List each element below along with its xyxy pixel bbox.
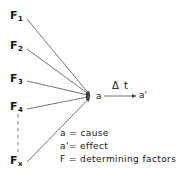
factor-label-Fx: Fx — [10, 155, 22, 168]
factor-label-F1: F1 — [10, 10, 22, 23]
factor-label-F4: F4 — [10, 101, 22, 114]
factor-subscript-Fx: x — [18, 160, 23, 168]
legend-item-factors: F = determining factors — [60, 153, 187, 166]
factor-subscript-F3: 3 — [18, 78, 23, 86]
legend-item-effect: a'= effect — [60, 140, 187, 153]
factor-subscript-F2: 2 — [18, 45, 23, 53]
cause-node-label: a — [96, 92, 102, 101]
factor-label-F2: F2 — [10, 40, 22, 53]
factor-label-F3: F3 — [10, 73, 22, 86]
legend: a = cause a'= effect F = determining fac… — [60, 127, 187, 166]
factor-subscript-F1: 1 — [18, 15, 23, 23]
causal-diagram: F1 F2 F3 F4 Fx a a' Δ t a = cause a'= ef… — [0, 0, 187, 179]
legend-item-cause: a = cause — [60, 127, 187, 140]
factor-subscript-F4: 4 — [18, 106, 23, 114]
delta-t-label: Δ t — [112, 81, 129, 91]
effect-node-label: a' — [139, 91, 147, 100]
